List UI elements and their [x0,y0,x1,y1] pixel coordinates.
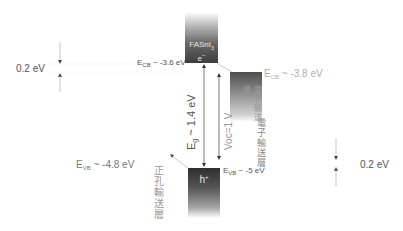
left-offset-arrow-down-icon [58,60,62,64]
electron-label: e− [185,52,218,63]
left-offset-label: 0.2 eV [16,64,45,74]
perovskite-evb-label: EVB ~ -5 eV [223,167,265,176]
bandgap-label: Eg ~ 1.4 eV [186,94,198,150]
htl-vertical-label: 正孔輸送層 [150,165,165,220]
htl-evb-label: EVB ~ -4.8 eV [76,160,134,171]
etl-ecb-label: ECB ~ -3.8 eV [264,69,323,80]
right-offset-label: 0.2 eV [360,160,389,170]
perovskite-box: FASnI3 e− [185,12,218,63]
perovskite-ecb-label: ECB ~ -3.6 eV [137,59,186,68]
etl-vertical-label: 電子輸送層 [255,118,268,168]
etl-box: 電子輸送層 [230,72,262,122]
htl-box: h+ [188,168,220,218]
hole-label: h+ [188,174,220,185]
perovskite-name: FASnI3 [185,40,218,51]
voc-label: Voc=1 V [224,112,234,150]
etl-box-label: 電子輸送層 [240,86,262,122]
right-offset-arrow-down-icon [334,156,338,160]
